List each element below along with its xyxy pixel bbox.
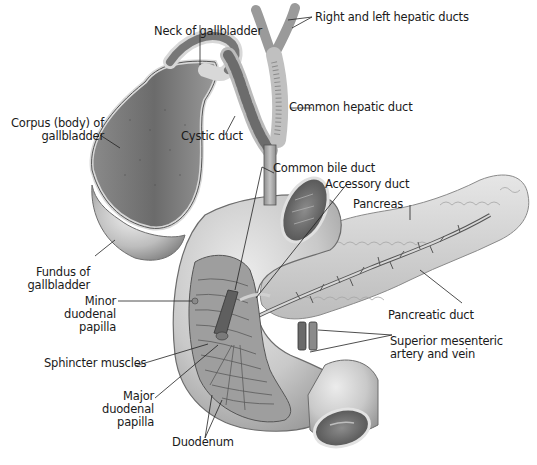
label-fundus-of-gallbladder: Fundus of gallbladder [20, 266, 90, 292]
label-corpus-of-gallbladder: Corpus (body) of gallbladder [10, 117, 104, 143]
label-common-hepatic-duct: Common hepatic duct [289, 101, 412, 114]
label-text: Sphincter muscles [44, 357, 146, 370]
label-text: Cystic duct [181, 130, 243, 143]
label-sphincter-muscles: Sphincter muscles [44, 357, 146, 370]
label-duodenum: Duodenum [172, 436, 234, 449]
mesenteric-vessels-shape [298, 322, 317, 350]
label-pancreas: Pancreas [353, 198, 403, 211]
label-text: Accessory duct [325, 178, 409, 191]
label-common-bile-duct: Common bile duct [273, 162, 375, 175]
label-text: Common hepatic duct [289, 101, 412, 114]
label-text: Right and left hepatic ducts [315, 11, 469, 24]
label-accessory-duct: Accessory duct [325, 178, 409, 191]
label-minor-duodenal-papilla: Minor duodenal papilla [54, 295, 116, 334]
label-text: papilla [54, 321, 116, 334]
label-major-duodenal-papilla: Major duodenal papilla [90, 390, 154, 429]
label-superior-mesenteric: Superior mesenteric artery and vein [390, 335, 503, 361]
label-text: gallbladder [20, 279, 90, 292]
label-neck-of-gallbladder: Neck of gallbladder [154, 25, 262, 38]
anatomy-illustration [0, 0, 537, 465]
label-text: Common bile duct [273, 162, 375, 175]
label-text: Pancreas [353, 198, 403, 211]
label-text: Neck of gallbladder [154, 25, 262, 38]
label-right-left-hepatic-ducts: Right and left hepatic ducts [315, 11, 469, 24]
label-text: Duodenum [172, 436, 234, 449]
label-text: gallbladder [10, 130, 104, 143]
label-text: Pancreatic duct [388, 309, 474, 322]
label-text: artery and vein [390, 348, 503, 361]
label-pancreatic-duct: Pancreatic duct [388, 309, 474, 322]
label-text: papilla [90, 416, 154, 429]
label-cystic-duct: Cystic duct [181, 130, 243, 143]
